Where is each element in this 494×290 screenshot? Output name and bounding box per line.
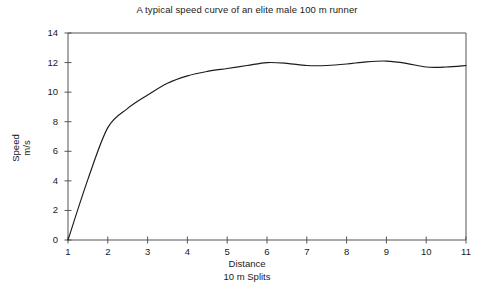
- y-tick-label: 14: [36, 27, 58, 38]
- y-tick-label: 6: [36, 145, 58, 156]
- x-tick-label: 9: [375, 246, 397, 257]
- y-tick-label: 4: [36, 175, 58, 186]
- y-tick-label: 0: [36, 234, 58, 245]
- x-tick-label: 3: [137, 246, 159, 257]
- x-tick-label: 8: [336, 246, 358, 257]
- x-tick-label: 10: [415, 246, 437, 257]
- x-tick-label: 7: [296, 246, 318, 257]
- y-tick-label: 12: [36, 57, 58, 68]
- x-tick-label: 11: [455, 246, 477, 257]
- x-tick-label: 2: [97, 246, 119, 257]
- speed-curve-chart: A typical speed curve of an elite male 1…: [0, 0, 494, 290]
- x-tick-label: 4: [176, 246, 198, 257]
- x-tick-label: 1: [57, 246, 79, 257]
- x-tick-label: 6: [256, 246, 278, 257]
- y-tick-label: 8: [36, 116, 58, 127]
- plot-frame: [68, 33, 466, 240]
- x-tick-label: 5: [216, 246, 238, 257]
- y-tick-label: 10: [36, 86, 58, 97]
- y-tick-label: 2: [36, 204, 58, 215]
- speed-curve-line: [68, 61, 466, 240]
